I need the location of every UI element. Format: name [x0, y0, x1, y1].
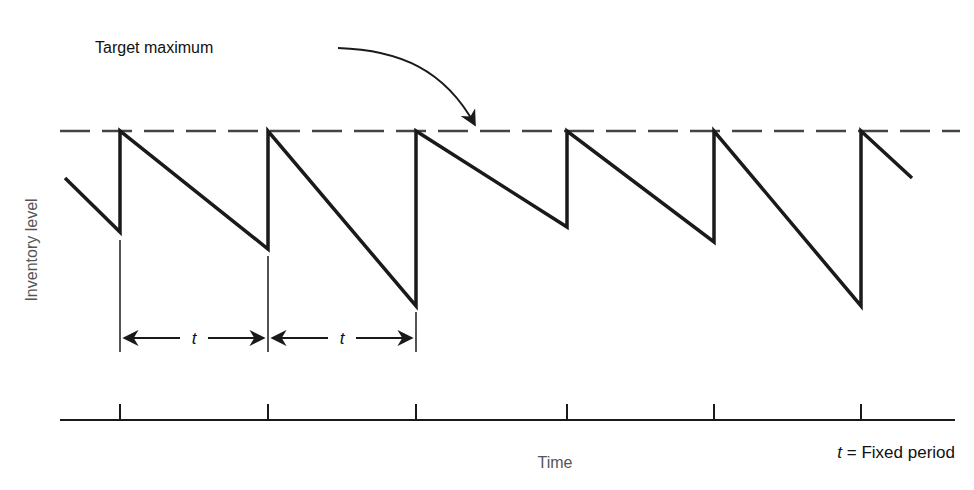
target-maximum-label: Target maximum — [95, 39, 213, 56]
y-axis-label: Inventory level — [23, 198, 40, 301]
legend-text: t = Fixed period — [837, 443, 955, 462]
x-axis-label: Time — [538, 454, 573, 471]
inventory-sawtooth — [65, 131, 912, 306]
legend-description: = Fixed period — [842, 443, 955, 462]
inventory-diagram: Target maximum t t Time Inventory level … — [0, 0, 974, 490]
annotation-arrow-icon — [338, 48, 475, 125]
time-axis-ticks — [120, 404, 861, 420]
interval-label-1: t — [192, 329, 198, 348]
interval-label-2: t — [340, 329, 346, 348]
